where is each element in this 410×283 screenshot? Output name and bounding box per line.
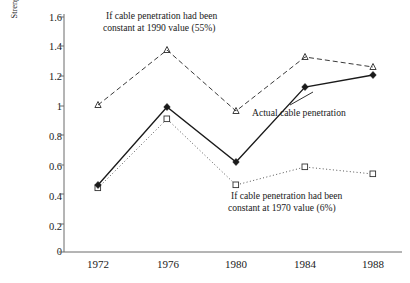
chart-plot-svg [0,0,410,283]
series-1990-markers [95,47,376,114]
series-actual-markers [95,72,376,189]
series-1970-line [98,119,373,188]
series-actual-line [98,75,373,185]
series-1990-constant [95,47,376,114]
series-1970-constant [95,116,376,191]
axes [59,14,402,252]
annotation-actual-leader [290,92,313,105]
annotation-leader-lines [290,92,313,105]
y-axis-ticks [59,17,64,252]
chart-container: Strength of Relationship between Preside… [0,0,410,283]
series-1990-line [98,50,373,111]
series-1970-markers [95,116,376,191]
series-actual [95,72,376,189]
